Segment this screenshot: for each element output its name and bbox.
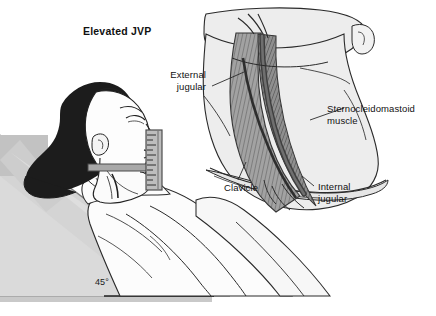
label-internal-jugular-line1: Internal (318, 181, 351, 193)
label-clavicle: Clavicle (224, 182, 258, 194)
jvp-illustration-figure: Elevated JVP External jugular Sternoclei… (0, 0, 436, 316)
bed-base (0, 296, 212, 302)
label-internal-jugular-line2: jugular (318, 193, 347, 205)
inset-ear (352, 24, 374, 54)
patient-ear (92, 134, 109, 155)
figure-title: Elevated JVP (83, 26, 151, 38)
label-angle-45: 45° (95, 277, 109, 289)
label-external-jugular-line1: External (148, 69, 206, 81)
illustration-canvas (0, 0, 436, 316)
label-external-jugular-line2: jugular (148, 81, 206, 93)
label-sternocleidomastoid-line2: muscle (327, 115, 358, 127)
label-sternocleidomastoid-line1: Sternocleidomastoid (327, 103, 415, 115)
